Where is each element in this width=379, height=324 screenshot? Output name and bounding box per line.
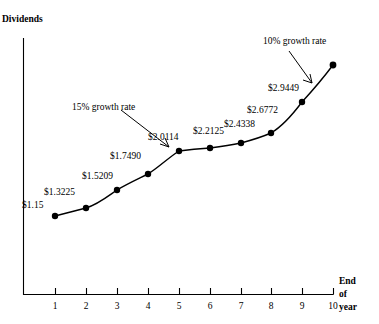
data-point [268,130,274,136]
data-label-year-7: $2.4338 [224,120,255,130]
x-tick-label-2: 2 [76,301,96,311]
data-point [83,205,89,211]
dividend-growth-chart: Dividends End of year 1 2 3 4 5 6 7 8 9 … [0,0,379,324]
arrow-10-percent [289,51,312,83]
x-tick-label-5: 5 [169,301,189,311]
data-label-year-9: $2.9449 [268,84,299,94]
data-label-year-2: $1.3225 [44,188,75,198]
x-axis-title-line-2: of [339,289,347,300]
chart-canvas [0,0,379,324]
annotation-15-percent-growth: 15% growth rate [72,102,135,112]
x-tick-label-9: 9 [292,301,312,311]
data-point [52,213,58,219]
data-point [176,148,182,154]
data-point [114,187,120,193]
x-tick-label-10: 10 [323,301,343,311]
x-tick-label-4: 4 [138,301,158,311]
x-axis-ticks [56,288,334,295]
data-point [238,140,244,146]
x-tick-label-6: 6 [200,301,220,311]
x-axis-title-line-1: End [339,276,356,287]
x-tick-label-1: 1 [45,301,65,311]
data-label-year-4: $1.7490 [110,152,141,162]
data-label-year-6: $2.2125 [193,127,224,137]
data-label-year-5: $2.0114 [148,133,179,143]
data-point [145,171,151,177]
x-tick-label-3: 3 [107,301,127,311]
data-label-year-8: $2.6772 [247,106,278,116]
x-tick-label-8: 8 [261,301,281,311]
y-axis-title: Dividends [2,14,43,25]
data-point [330,62,337,69]
data-label-year-3: $1.5209 [82,172,113,182]
data-point [207,145,213,151]
x-tick-label-7: 7 [231,301,251,311]
data-label-year-1: $1.15 [22,201,43,211]
data-point [299,99,305,105]
annotation-10-percent-growth: 10% growth rate [263,36,326,46]
